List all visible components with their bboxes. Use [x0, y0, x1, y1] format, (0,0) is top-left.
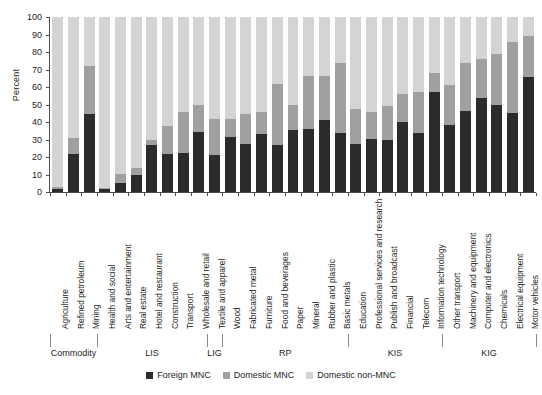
- bar-column[interactable]: [413, 17, 424, 192]
- group-label: LIG: [207, 348, 222, 358]
- x-category-label: Transport: [186, 293, 195, 329]
- x-tick-mark: [207, 193, 208, 196]
- x-category-label: Motor vehicles: [531, 275, 540, 329]
- x-category-label: Information technology: [437, 244, 446, 329]
- bar-column[interactable]: [225, 17, 236, 192]
- x-tick-mark: [473, 193, 474, 196]
- bar-column[interactable]: [335, 17, 346, 192]
- bar-column[interactable]: [209, 17, 220, 192]
- x-category-label: Education: [359, 292, 368, 329]
- bar-segment: [193, 17, 204, 105]
- bar-segment: [507, 113, 518, 192]
- bar-column[interactable]: [131, 17, 142, 192]
- x-category-label: Professional services and research: [375, 199, 384, 329]
- x-category-label: Refined petroleum: [77, 261, 86, 329]
- x-category-label: Electrical equipment: [516, 254, 525, 329]
- x-category-label: Food and beverages: [281, 252, 290, 329]
- bar-segment: [366, 139, 377, 192]
- bar-segment: [523, 36, 534, 76]
- x-tick-mark: [536, 193, 537, 196]
- group-divider: [207, 334, 208, 347]
- bar-column[interactable]: [288, 17, 299, 192]
- bar-segment: [288, 105, 299, 130]
- y-tick-mark: [46, 87, 49, 88]
- bar-column[interactable]: [382, 17, 393, 192]
- legend-item[interactable]: Domestic MNC: [223, 370, 295, 380]
- y-tick-label: 40: [32, 118, 42, 127]
- y-tick-mark: [46, 70, 49, 71]
- bar-segment: [193, 105, 204, 131]
- bar-segment: [397, 122, 408, 192]
- bar-segment: [84, 114, 95, 192]
- x-tick-mark: [520, 193, 521, 196]
- x-category-label: Basic metals: [343, 282, 352, 329]
- bar-segment: [131, 17, 142, 168]
- bar-segment: [523, 77, 534, 193]
- x-category-label: Agriculture: [61, 289, 70, 329]
- bar-segment: [162, 154, 173, 193]
- bar-segment: [382, 140, 393, 193]
- bar-column[interactable]: [193, 17, 204, 192]
- bar-column[interactable]: [491, 17, 502, 192]
- bar-segment: [397, 94, 408, 122]
- legend-item[interactable]: Foreign MNC: [146, 370, 211, 380]
- bar-segment: [397, 17, 408, 94]
- y-tick-mark: [46, 140, 49, 141]
- bar-segment: [131, 175, 142, 193]
- bar-column[interactable]: [115, 17, 126, 192]
- bar-column[interactable]: [52, 17, 63, 192]
- x-category-label: Computer and electronics: [484, 234, 493, 329]
- x-category-label: Health and social: [108, 265, 117, 329]
- bar-segment: [491, 17, 502, 54]
- bar-column[interactable]: [146, 17, 157, 192]
- bar-segment: [303, 76, 314, 129]
- bar-column[interactable]: [162, 17, 173, 192]
- legend-label: Domestic non-MNC: [317, 370, 396, 380]
- bar-column[interactable]: [350, 17, 361, 192]
- y-tick-label: 0: [37, 188, 42, 197]
- bar-segment: [429, 17, 440, 73]
- x-tick-mark: [458, 193, 459, 196]
- x-category-label: Construction: [171, 282, 180, 329]
- bar-column[interactable]: [319, 17, 330, 192]
- bar-column[interactable]: [303, 17, 314, 192]
- x-tick-mark: [160, 193, 161, 196]
- bar-segment: [162, 126, 173, 154]
- x-category-label: Machinery and equipment: [469, 233, 478, 329]
- y-tick-label: 20: [32, 153, 42, 162]
- bar-segment: [256, 112, 267, 134]
- bar-column[interactable]: [84, 17, 95, 192]
- x-tick-mark: [238, 193, 239, 196]
- bar-column[interactable]: [429, 17, 440, 192]
- bar-column[interactable]: [476, 17, 487, 192]
- group-divider: [222, 334, 223, 347]
- legend-item[interactable]: Domestic non-MNC: [306, 370, 396, 380]
- bar-segment: [272, 17, 283, 84]
- bar-column[interactable]: [366, 17, 377, 192]
- x-tick-mark: [505, 193, 506, 196]
- bar-column[interactable]: [68, 17, 79, 192]
- bar-segment: [288, 17, 299, 105]
- bar-column[interactable]: [397, 17, 408, 192]
- x-tick-mark: [332, 193, 333, 196]
- bar-column[interactable]: [178, 17, 189, 192]
- group-label: Commodity: [51, 348, 97, 358]
- bar-column[interactable]: [256, 17, 267, 192]
- bar-segment: [240, 144, 251, 192]
- bar-column[interactable]: [523, 17, 534, 192]
- plot-area: [50, 17, 536, 192]
- bar-column[interactable]: [240, 17, 251, 192]
- bar-column[interactable]: [444, 17, 455, 192]
- bar-column[interactable]: [272, 17, 283, 192]
- x-tick-mark: [66, 193, 67, 196]
- legend-label: Foreign MNC: [157, 370, 211, 380]
- legend-swatch-icon: [146, 372, 153, 379]
- bar-column[interactable]: [460, 17, 471, 192]
- bar-column[interactable]: [507, 17, 518, 192]
- bar-segment: [84, 17, 95, 66]
- x-category-label: Fabricated metal: [249, 267, 258, 329]
- bar-segment: [366, 112, 377, 139]
- bar-column[interactable]: [99, 17, 110, 192]
- bar-segment: [507, 42, 518, 114]
- group-label: LIS: [145, 348, 159, 358]
